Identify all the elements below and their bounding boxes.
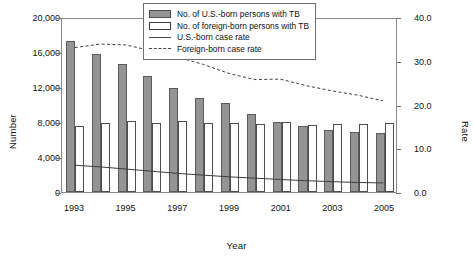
x-axis-tick-label: 1997 xyxy=(167,203,187,213)
secondary-y-axis-tick-label: 10.0 xyxy=(414,144,432,154)
y-axis-title-label: Number xyxy=(7,114,18,149)
legend-item: Foreign-born case rate xyxy=(149,43,309,54)
tb-cases-and-rates-chart: Number Rate Year 04,0008,00012,00016,000… xyxy=(0,0,473,263)
secondary-y-axis-title: Rate xyxy=(459,0,471,263)
x-axis-tick-label: 2003 xyxy=(322,203,342,213)
legend-item: No. of foreign-born persons with TB xyxy=(149,20,309,31)
us-born-case-rate-line xyxy=(75,165,383,183)
legend-item-label: No. of U.S.-born persons with TB xyxy=(177,9,300,19)
secondary-y-axis-tick-label: 30.0 xyxy=(414,57,432,67)
legend-key-us-rate xyxy=(149,33,171,41)
legend-dashed-line-icon xyxy=(149,48,171,49)
secondary-y-axis-tick-label: 20.0 xyxy=(414,101,432,111)
y-axis-title: Number xyxy=(6,0,18,263)
legend-key-foreign-rate xyxy=(149,45,171,53)
right-axis-tick-labels: 0.010.020.030.040.0 xyxy=(403,0,453,263)
x-axis-title-label: Year xyxy=(227,240,247,251)
legend-item-label: No. of foreign-born persons with TB xyxy=(177,21,309,31)
legend-swatch-foreign-born xyxy=(149,22,171,30)
secondary-y-axis-tick-label: 40.0 xyxy=(414,13,432,23)
legend-item-label: Foreign-born case rate xyxy=(177,44,262,54)
x-axis-tick-label: 1999 xyxy=(219,203,239,213)
x-axis-tick-label: 2001 xyxy=(271,203,291,213)
chart-legend: No. of U.S.-born persons with TBNo. of f… xyxy=(143,3,316,60)
x-axis-tick-label: 1993 xyxy=(64,203,84,213)
secondary-y-axis-tick-label: 0.0 xyxy=(414,188,427,198)
legend-item-label: U.S.-born case rate xyxy=(177,32,250,42)
legend-swatch-us-born xyxy=(149,10,171,18)
legend-item: U.S.-born case rate xyxy=(149,32,309,43)
x-axis-tick-label: 2005 xyxy=(374,203,394,213)
x-axis-tick-label: 1995 xyxy=(116,203,136,213)
y-axis-tickmark xyxy=(56,193,61,194)
secondary-y-axis-tickmark xyxy=(396,193,401,194)
legend-solid-line-icon xyxy=(149,37,171,38)
legend-item: No. of U.S.-born persons with TB xyxy=(149,9,309,20)
left-axis-tick-labels: 04,0008,00012,00016,00020,000 xyxy=(18,0,60,263)
secondary-y-axis-title-label: Rate xyxy=(460,121,471,142)
